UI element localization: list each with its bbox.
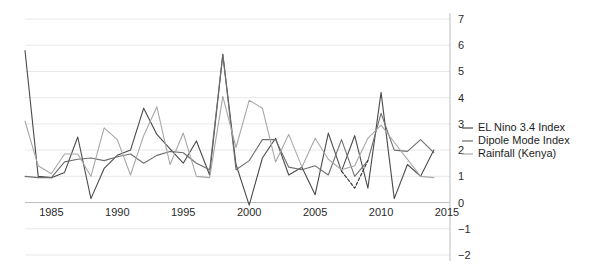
x-tick-label-2005: 2005 (303, 206, 327, 218)
y-tick-label-7: 7 (458, 13, 464, 25)
series-line-el-nino-3-4-index (25, 50, 434, 205)
chart-legend: EL Nino 3.4 IndexDipole Mode IndexRainfa… (462, 121, 570, 159)
y-tick-label--2: −2 (458, 249, 471, 261)
y-tick-label--1: −1 (458, 223, 471, 235)
x-tick-label-1990: 1990 (105, 206, 129, 218)
legend-label-2: Rainfall (Kenya) (478, 147, 556, 159)
x-tick-label-2015: 2015 (435, 206, 459, 218)
x-tick-label-1985: 1985 (39, 206, 63, 218)
line-chart: 76543210−1−2 198519901995200020052010201… (0, 0, 594, 268)
legend-label-1: Dipole Mode Index (478, 134, 570, 146)
chart-container: 76543210−1−2 198519901995200020052010201… (0, 0, 594, 268)
series-line-dipole-mode-index (25, 54, 434, 177)
y-tick-label-5: 5 (458, 65, 464, 77)
legend-label-0: EL Nino 3.4 Index (478, 121, 566, 133)
y-tick-labels-group: 76543210−1−2 (458, 13, 471, 261)
x-tick-label-2010: 2010 (369, 206, 393, 218)
x-tick-label-1995: 1995 (171, 206, 195, 218)
x-tick-labels-group: 1985199019952000200520102015 (39, 206, 459, 218)
data-series-group (25, 50, 434, 205)
y-tick-label-6: 6 (458, 39, 464, 51)
y-tick-label-1: 1 (458, 170, 464, 182)
y-tick-label-4: 4 (458, 92, 464, 104)
x-tick-label-2000: 2000 (237, 206, 261, 218)
